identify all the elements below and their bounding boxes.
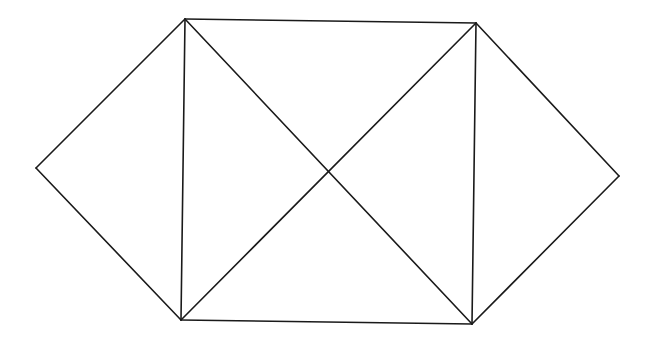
edge-B_top_left-F_bottom_left: [181, 19, 185, 320]
edge-A_left-B_top_left: [36, 19, 185, 168]
geometric-figure: [0, 0, 652, 347]
edge-C_top_right-D_right: [476, 23, 619, 176]
edge-F_bottom_left-E_bottom_right: [181, 320, 472, 324]
edge-C_top_right-E_bottom_right: [472, 23, 476, 324]
diagram-canvas: [0, 0, 652, 347]
edge-A_left-F_bottom_left: [36, 168, 181, 320]
edge-D_right-E_bottom_right: [472, 176, 619, 324]
edge-B_top_left-C_top_right: [185, 19, 476, 23]
edge-F_bottom_left-C_top_right: [181, 23, 476, 320]
